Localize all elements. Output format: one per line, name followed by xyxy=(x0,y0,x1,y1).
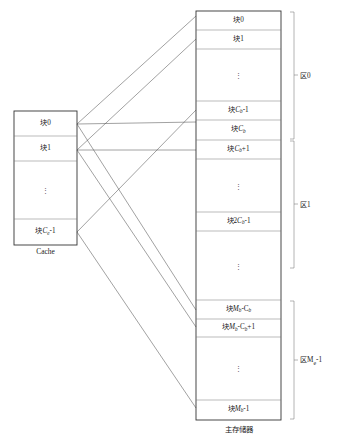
region-1-label: 区1 xyxy=(300,199,311,209)
region-bracket-me-1 xyxy=(290,301,294,419)
diagram-boxes xyxy=(0,0,340,443)
region-me-1-label: 区Me-1 xyxy=(300,354,322,365)
cache-block-0-label: 块0 xyxy=(40,120,51,127)
cache-caption: Cache xyxy=(36,247,54,256)
cache-ellipsis: ... xyxy=(45,186,47,193)
mm-block-cb-plus-1-label: 块Cb+1 xyxy=(227,146,249,153)
mm-block-mb-cb-plus-1-label: 块Mb-Cb+1 xyxy=(222,324,255,331)
cache-box xyxy=(14,111,77,245)
cache-mapping-diagram: 块0 块1 ... 块Ce-1 Cache 块0 块1 ... 块Cb-1 块C… xyxy=(0,0,340,443)
region-0-label: 区0 xyxy=(300,70,311,80)
mm-block-0-label: 块0 xyxy=(233,17,244,24)
region-bracket-1 xyxy=(290,141,294,268)
mm-ellipsis-1: ... xyxy=(238,71,240,78)
mm-block-mb-cb-label: 块Mb-Cb xyxy=(226,306,251,313)
mm-block-mb-1-label: 块Mb-1 xyxy=(228,406,250,413)
mm-block-cb-label: 块Cb xyxy=(231,126,245,133)
region-bracket-0 xyxy=(290,12,294,139)
cache-block-1-label: 块1 xyxy=(40,145,51,152)
mm-ellipsis-2: ... xyxy=(238,182,240,189)
mm-block-1-label: 块1 xyxy=(233,36,244,43)
mm-block-cb-1-label: 块Cb-1 xyxy=(228,107,248,114)
mm-ellipsis-4: ... xyxy=(238,364,240,371)
cache-block-ce-1-label: 块Ce-1 xyxy=(35,228,55,235)
mm-ellipsis-3: ... xyxy=(238,262,240,269)
main-memory-caption: 主存储器 xyxy=(225,423,253,434)
mm-block-2cb-1-label: 块2Cb-1 xyxy=(227,218,251,225)
